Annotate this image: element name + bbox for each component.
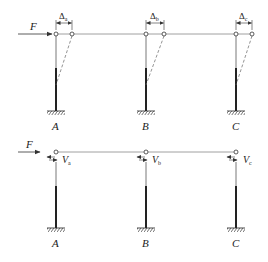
svg-text:Δa: Δa (59, 11, 68, 22)
top-column-a: A Δa (47, 11, 74, 132)
bottom-support-hatch-b (137, 228, 155, 232)
top-displacement-c: Δc (236, 11, 252, 30)
shear-b: Vb (137, 154, 161, 166)
top-support-hatch-a (47, 111, 65, 115)
top-node-b-displaced (162, 32, 166, 36)
top-deflected-a (56, 36, 72, 85)
top-deflected-c (236, 36, 252, 85)
top-column-b: B Δb (137, 11, 166, 132)
top-column-c: C Δc (227, 11, 254, 132)
bottom-column-c: Vc C (227, 150, 252, 249)
top-load-arrow: F (18, 20, 52, 34)
top-displacement-b: Δb (146, 11, 164, 30)
bottom-support-hatch-a (47, 228, 65, 232)
bottom-label-b: B (142, 237, 149, 249)
top-label-b: B (142, 120, 149, 132)
top-load-label: F (29, 20, 37, 32)
top-node-c-displaced (250, 32, 254, 36)
svg-text:Va: Va (62, 154, 71, 166)
bottom-node-a (54, 150, 58, 154)
bottom-frame: F Va A Vb (18, 138, 252, 249)
delta-c-subscript: c (245, 16, 248, 22)
top-label-c: C (232, 120, 240, 132)
delta-b-subscript: b (156, 16, 159, 22)
svg-text:Δc: Δc (239, 11, 248, 22)
top-support-hatch-b (137, 111, 155, 115)
shear-b-subscript: b (158, 160, 161, 166)
svg-text:Vc: Vc (243, 154, 252, 166)
bottom-node-b (144, 150, 148, 154)
svg-text:Δb: Δb (150, 11, 159, 22)
top-deflected-b (146, 36, 164, 85)
bottom-load-label: F (25, 138, 33, 150)
bottom-column-b: Vb B (137, 150, 161, 249)
bottom-support-hatch-c (227, 228, 245, 232)
bottom-label-c: C (232, 237, 240, 249)
bottom-load-arrow: F (18, 138, 40, 152)
shear-a-subscript: a (68, 160, 71, 166)
top-node-a-displaced (70, 32, 74, 36)
top-frame: F A Δa (18, 11, 254, 132)
bottom-node-c (234, 150, 238, 154)
top-node-b (144, 32, 148, 36)
shear-c: Vc (227, 154, 252, 166)
delta-a-subscript: a (65, 16, 68, 22)
shear-c-subscript: c (249, 160, 252, 166)
bottom-label-a: A (51, 237, 59, 249)
svg-text:Vb: Vb (152, 154, 161, 166)
top-support-hatch-c (227, 111, 245, 115)
top-label-a: A (51, 120, 59, 132)
bottom-column-a: Va A (47, 150, 71, 249)
top-displacement-a: Δa (56, 11, 72, 30)
shear-a: Va (47, 154, 71, 166)
frame-diagram: F A Δa (0, 0, 268, 262)
top-node-c (234, 32, 238, 36)
top-node-a (54, 32, 58, 36)
